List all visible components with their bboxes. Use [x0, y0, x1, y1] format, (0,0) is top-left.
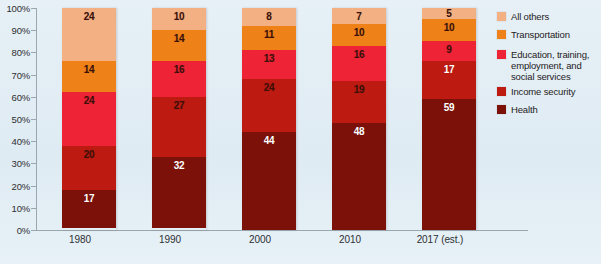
segment-transportation-2010: 10 [332, 24, 386, 46]
x-axis-label-1990: 1990 [125, 234, 215, 245]
segment-health-2000: 44 [242, 132, 296, 230]
segment-all-others-1980: 24 [62, 8, 116, 61]
legend-label-education: Education, training, employment, and soc… [511, 49, 589, 82]
segment-education-2017: 9 [422, 41, 476, 61]
legend-swatch-icon [497, 12, 506, 21]
segment-health-1980: 17 [62, 190, 116, 228]
legend-label-all-others: All others [511, 11, 549, 22]
y-tick-label-0: 0% [0, 225, 30, 236]
segment-all-others-2010: 7 [332, 8, 386, 24]
legend-swatch-icon [497, 87, 506, 96]
plot-area: 24 14 24 20 17 10 14 16 [36, 8, 488, 230]
y-tick-label-40: 40% [0, 136, 30, 147]
y-tick-label-80: 80% [0, 47, 30, 58]
segment-education-2010: 16 [332, 46, 386, 82]
x-axis-label-2010: 2010 [305, 234, 395, 245]
segment-value: 27 [174, 97, 185, 111]
segment-value: 24 [84, 92, 95, 106]
legend-label-line-1: Education, training, [511, 49, 589, 60]
y-tick-label-10: 10% [0, 202, 30, 213]
segment-income-security-2010: 19 [332, 81, 386, 123]
segment-value: 24 [84, 8, 95, 22]
legend-label-line-3: social services [511, 71, 589, 82]
segment-value: 10 [354, 24, 365, 38]
segment-health-2010: 48 [332, 123, 386, 230]
segment-value: 16 [354, 46, 365, 60]
y-tick-label-100: 100% [0, 3, 30, 14]
bar-2017[interactable]: 5 10 9 17 59 [422, 8, 476, 230]
segment-income-security-2017: 17 [422, 61, 476, 99]
y-tick-0 [31, 230, 37, 231]
x-axis-label-2017: 2017 (est.) [395, 234, 485, 245]
segment-value: 10 [174, 8, 185, 22]
segment-all-others-2017: 5 [422, 8, 476, 19]
segment-value: 9 [446, 41, 451, 55]
segment-value: 13 [264, 50, 275, 64]
legend-label-transportation: Transportation [511, 29, 570, 40]
segment-value: 7 [356, 8, 361, 22]
stacked-bar-chart: 0% 10% 20% 30% 40% 50% 60% 70% 80% 90% 1… [0, 0, 601, 264]
x-axis-label-2000: 2000 [215, 234, 305, 245]
segment-income-security-1990: 27 [152, 97, 206, 157]
segment-value: 14 [84, 61, 95, 75]
segment-all-others-1990: 10 [152, 8, 206, 30]
segment-value: 14 [174, 30, 185, 44]
y-axis-labels: 0% 10% 20% 30% 40% 50% 60% 70% 80% 90% 1… [0, 0, 30, 264]
x-axis-label-1980: 1980 [35, 234, 125, 245]
segment-education-1990: 16 [152, 61, 206, 97]
segment-income-security-2000: 24 [242, 79, 296, 132]
legend-swatch-icon [497, 50, 506, 59]
legend-item-health[interactable]: Health [497, 104, 601, 115]
segment-education-1980: 24 [62, 92, 116, 145]
segment-value: 59 [444, 99, 455, 113]
segment-value: 17 [84, 190, 95, 204]
legend-item-education[interactable]: Education, training, employment, and soc… [497, 49, 601, 82]
legend-label-income-security: Income security [511, 86, 575, 97]
segment-value: 44 [264, 132, 275, 146]
bar-2010[interactable]: 7 10 16 19 48 [332, 8, 386, 230]
segment-value: 8 [266, 8, 271, 22]
segment-value: 48 [354, 123, 365, 137]
segment-all-others-2000: 8 [242, 8, 296, 26]
segment-value: 17 [444, 61, 455, 75]
segment-value: 5 [446, 8, 451, 19]
legend-label-health: Health [511, 104, 538, 115]
segment-value: 20 [84, 146, 95, 160]
segment-value: 11 [264, 26, 274, 40]
legend-item-all-others[interactable]: All others [497, 11, 601, 22]
segment-transportation-2000: 11 [242, 26, 296, 50]
legend-label-line-2: employment, and [511, 60, 589, 71]
legend-swatch-icon [497, 30, 506, 39]
legend-item-transportation[interactable]: Transportation [497, 29, 601, 40]
segment-transportation-2017: 10 [422, 19, 476, 41]
segment-value: 19 [354, 81, 365, 95]
segment-transportation-1980: 14 [62, 61, 116, 92]
segment-health-2017: 59 [422, 99, 476, 230]
segment-health-1990: 32 [152, 157, 206, 228]
legend-item-income-security[interactable]: Income security [497, 86, 601, 97]
y-tick-label-50: 50% [0, 114, 30, 125]
segment-transportation-1990: 14 [152, 30, 206, 61]
chart-legend: All others Transportation Education, tra… [497, 11, 601, 122]
segment-value: 16 [174, 61, 185, 75]
legend-swatch-icon [497, 105, 506, 114]
segment-value: 32 [174, 157, 185, 171]
y-tick-label-60: 60% [0, 91, 30, 102]
segment-education-2000: 13 [242, 50, 296, 79]
segment-value: 10 [444, 19, 455, 33]
bar-2000[interactable]: 8 11 13 24 44 [242, 8, 296, 230]
y-tick-label-70: 70% [0, 69, 30, 80]
bar-1990[interactable]: 10 14 16 27 32 [152, 8, 206, 230]
bar-1980[interactable]: 24 14 24 20 17 [62, 8, 116, 230]
y-tick-label-20: 20% [0, 180, 30, 191]
x-axis-line [36, 230, 528, 231]
segment-income-security-1980: 20 [62, 146, 116, 190]
y-tick-label-30: 30% [0, 158, 30, 169]
y-tick-label-90: 90% [0, 25, 30, 36]
segment-value: 24 [264, 79, 275, 93]
